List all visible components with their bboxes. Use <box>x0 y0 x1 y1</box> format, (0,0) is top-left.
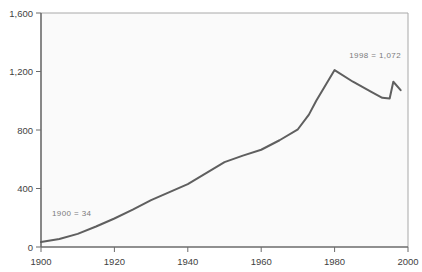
y-tick-label-800: 800 <box>17 125 33 136</box>
x-tick-label-1920: 1920 <box>104 256 125 267</box>
chart-container: 1,600 1,200 800 400 0 1900 1920 1940 196… <box>0 0 422 272</box>
y-tick-label-400: 400 <box>17 183 33 194</box>
x-tick-label-1900: 1900 <box>30 256 51 267</box>
x-tick-label-1940: 1940 <box>177 256 198 267</box>
y-tick-label-0: 0 <box>28 242 33 253</box>
x-tick-label-1980: 1980 <box>324 256 345 267</box>
start-value-label: 1900 = 34 <box>52 209 92 218</box>
x-tick-label-2000: 2000 <box>397 256 418 267</box>
x-tick-label-1960: 1960 <box>251 256 272 267</box>
y-tick-label-1600: 1,600 <box>9 8 33 19</box>
line-chart: 1,600 1,200 800 400 0 1900 1920 1940 196… <box>0 0 422 272</box>
y-tick-label-1200: 1,200 <box>9 66 33 77</box>
end-value-label: 1998 = 1,072 <box>349 51 401 60</box>
plot-background <box>41 13 408 247</box>
